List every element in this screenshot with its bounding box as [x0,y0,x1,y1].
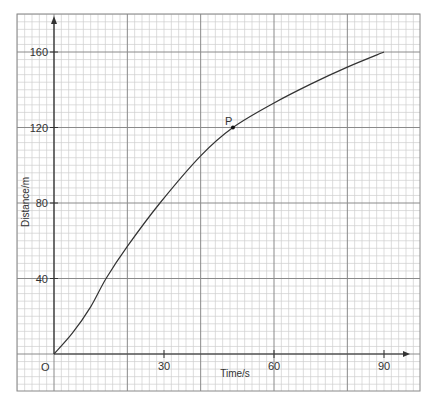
y-axis-arrow-icon [51,16,57,24]
y-tick-label: 160 [30,46,48,58]
y-tick-label: 80 [36,197,48,209]
x-tick-label: 60 [268,360,280,372]
ticks: 3060904080120160 [30,46,390,372]
y-tick-label: 40 [36,273,48,285]
y-axis-label: Distance/m [20,177,31,227]
x-tick-label: 90 [378,360,390,372]
point-p-label: P [225,115,232,127]
x-axis-arrow-icon [403,351,410,357]
y-tick-label: 120 [30,122,48,134]
major-grid [17,14,420,391]
origin-label: O [41,361,50,373]
x-tick-label: 30 [158,360,170,372]
x-axis-label: Time/s [220,368,250,379]
distance-time-chart: 3060904080120160 P O Time/s Distance/m [0,0,433,401]
